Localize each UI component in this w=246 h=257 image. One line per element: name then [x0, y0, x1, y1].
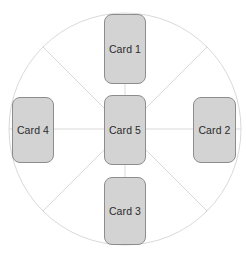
card-5-label: Card 5	[109, 125, 141, 136]
card-5[interactable]: Card 5	[104, 95, 146, 165]
card-1-label: Card 1	[109, 44, 141, 55]
card-3-label: Card 3	[109, 206, 141, 217]
card-1[interactable]: Card 1	[104, 14, 146, 84]
card-4-label: Card 4	[17, 125, 49, 136]
card-2[interactable]: Card 2	[193, 97, 236, 163]
card-2-label: Card 2	[198, 125, 230, 136]
diagram-canvas: Card 1 Card 2 Card 3 Card 4 Card 5	[0, 0, 246, 257]
card-4[interactable]: Card 4	[12, 97, 54, 163]
card-3[interactable]: Card 3	[104, 177, 146, 245]
